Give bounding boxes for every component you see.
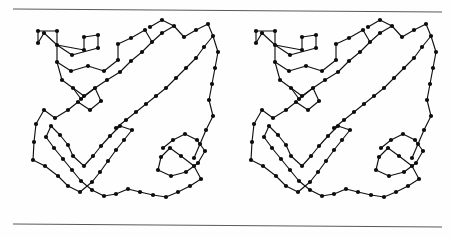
left-tour-node-103: [211, 114, 215, 118]
left-tour-node-91: [211, 34, 215, 38]
left-tour-node-41: [90, 180, 94, 184]
right-tour-node-61: [308, 188, 312, 192]
right-tour-node-79: [421, 149, 425, 153]
right-tour-node-12: [304, 64, 308, 68]
right-tour-node-96: [382, 86, 386, 90]
right-tour-panel[interactable]: [228, 14, 442, 222]
left-tour-node-3: [55, 29, 59, 33]
left-tour-node-102: [207, 98, 211, 102]
left-tour-node-14: [116, 58, 120, 62]
left-tour-node-57: [52, 146, 56, 150]
right-tour-node-52: [289, 154, 293, 158]
right-tour-node-93: [412, 56, 416, 60]
left-tour-node-76: [169, 174, 173, 178]
left-tour-panel[interactable]: [13, 14, 225, 222]
right-tour-node-46: [348, 128, 352, 132]
left-tour-node-81: [183, 132, 187, 136]
right-tour-node-19: [358, 50, 362, 54]
left-tour-node-26: [60, 78, 64, 82]
right-tour-node-53: [284, 143, 288, 147]
tour-comparison-figure: [0, 0, 451, 238]
left-tour-node-43: [106, 159, 110, 163]
right-tour-node-34: [252, 122, 256, 126]
left-tour-node-69: [188, 184, 192, 188]
left-tour-node-65: [138, 190, 142, 194]
right-tour-node-104: [422, 128, 426, 132]
left-tour-node-0: [42, 31, 46, 35]
left-tour-node-106: [192, 156, 196, 160]
right-tour-node-76: [387, 174, 391, 178]
left-tour-node-36: [31, 158, 35, 162]
left-tour-node-35: [32, 140, 36, 144]
right-tour-node-66: [369, 193, 373, 197]
right-tour-node-24: [300, 94, 304, 98]
left-tour-node-64: [126, 187, 130, 191]
right-tour-node-57: [270, 146, 274, 150]
left-tour-node-32: [53, 116, 57, 120]
right-tour-node-10: [273, 60, 277, 64]
right-tour-node-13: [320, 69, 324, 73]
left-tour-node-17: [143, 28, 147, 32]
left-tour-node-92: [202, 45, 206, 49]
left-tour-node-9: [70, 53, 74, 57]
right-tour-node-68: [394, 190, 398, 194]
left-tour-node-93: [194, 56, 198, 60]
left-tour-node-15: [116, 42, 120, 46]
left-tour-node-89: [194, 28, 198, 32]
right-tour-node-101: [428, 82, 432, 86]
right-tour-node-3: [273, 29, 277, 33]
right-tour-node-40: [296, 190, 300, 194]
right-tour-node-86: [378, 18, 382, 22]
right-tour-node-41: [308, 180, 312, 184]
right-tour-node-94: [402, 66, 406, 70]
left-tour-node-8: [96, 46, 100, 50]
right-tour-node-11: [287, 69, 291, 73]
right-tour-node-4: [273, 43, 277, 47]
right-tour-node-78: [414, 161, 418, 165]
right-tour-node-47: [336, 124, 340, 128]
left-tour-node-31: [66, 108, 70, 112]
left-tour-node-98: [144, 102, 148, 106]
left-tour-node-67: [164, 195, 168, 199]
right-tour-node-39: [284, 184, 288, 188]
left-tour-node-84: [160, 31, 164, 35]
left-tour-node-21: [118, 70, 122, 74]
right-tour-node-84: [378, 31, 382, 35]
left-tour-node-55: [49, 124, 53, 128]
left-tour-node-12: [86, 64, 90, 68]
right-tour-node-58: [279, 157, 283, 161]
right-tour-node-82: [389, 138, 393, 142]
left-tour-node-48: [108, 134, 112, 138]
left-tour-node-13: [102, 69, 106, 73]
left-tour-node-37: [43, 164, 47, 168]
right-tour-node-81: [401, 132, 405, 136]
left-tour-node-38: [56, 174, 60, 178]
left-tour-node-85: [172, 24, 176, 28]
right-tour-node-7: [314, 33, 318, 37]
left-tour-node-40: [78, 190, 82, 194]
left-tour-node-44: [114, 148, 118, 152]
right-tour-node-29: [306, 108, 310, 112]
left-tour-node-30: [76, 100, 80, 104]
right-tour-node-97: [372, 94, 376, 98]
left-tour-node-59: [70, 168, 74, 172]
right-tour-node-108: [342, 118, 346, 122]
left-tour-node-99: [216, 50, 220, 54]
right-tour-node-43: [324, 159, 328, 163]
left-tour-node-51: [82, 164, 86, 168]
right-tour-node-77: [402, 170, 406, 174]
left-tour-node-61: [90, 188, 94, 192]
right-tour-node-55: [267, 124, 271, 128]
left-tour-node-68: [176, 190, 180, 194]
left-tour-node-45: [122, 138, 126, 142]
right-tour-node-80: [413, 138, 417, 142]
right-tour-node-95: [392, 76, 396, 80]
right-tour-node-37: [261, 164, 265, 168]
left-tour-node-88: [182, 35, 186, 39]
right-tour-node-42: [316, 170, 320, 174]
figure-container: [0, 0, 451, 238]
left-tour-node-62: [102, 194, 106, 198]
left-tour-node-52: [71, 154, 75, 158]
left-tour-node-72: [179, 154, 183, 158]
left-tour-node-58: [61, 157, 65, 161]
